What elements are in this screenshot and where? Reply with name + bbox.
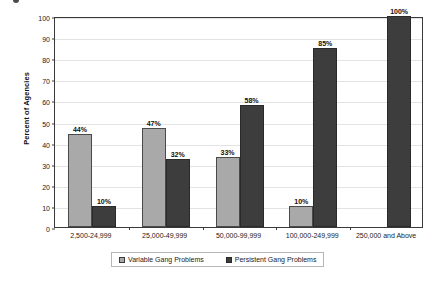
y-tick-label: 50 bbox=[42, 120, 50, 127]
bar-variable: 47% bbox=[142, 128, 166, 227]
bar-persistent: 58% bbox=[240, 105, 264, 227]
bar-value-label: 47% bbox=[147, 120, 161, 127]
y-tick-label: 10 bbox=[42, 204, 50, 211]
x-tick-mark bbox=[276, 227, 277, 230]
bar-value-label: 32% bbox=[171, 151, 185, 158]
y-tick-mark bbox=[52, 229, 55, 230]
bar-value-label: 44% bbox=[73, 126, 87, 133]
legend-swatch-icon bbox=[119, 257, 125, 263]
bar-persistent: 10% bbox=[92, 206, 116, 227]
x-tick-mark bbox=[129, 227, 130, 230]
plot-area: 0102030405060708090100 44%10%47%32%33%58… bbox=[54, 17, 423, 228]
x-axis-label: 250,000 and Above bbox=[356, 232, 416, 239]
bar-value-label: 58% bbox=[244, 97, 258, 104]
bar-value-label: 10% bbox=[97, 198, 111, 205]
x-axis-label: 50,000-99,999 bbox=[216, 232, 261, 239]
x-tick-mark bbox=[203, 227, 204, 230]
chart-legend: Variable Gang ProblemsPersistent Gang Pr… bbox=[111, 252, 324, 267]
bar-value-label: 100% bbox=[390, 8, 408, 15]
x-axis-label: 2,500-24,999 bbox=[70, 232, 111, 239]
y-tick-label: 60 bbox=[42, 99, 50, 106]
y-tick-label: 80 bbox=[42, 57, 50, 64]
x-axis-label: 25,000-49,999 bbox=[142, 232, 187, 239]
bar-value-label: 85% bbox=[318, 40, 332, 47]
legend-item[interactable]: Persistent Gang Problems bbox=[226, 256, 317, 263]
legend-item[interactable]: Variable Gang Problems bbox=[119, 256, 204, 263]
legend-swatch-icon bbox=[226, 257, 232, 263]
x-tick-mark bbox=[350, 227, 351, 230]
bar-persistent: 85% bbox=[313, 48, 337, 227]
x-axis-label: 100,000-249,999 bbox=[286, 232, 339, 239]
bar-variable: 33% bbox=[216, 157, 240, 227]
figure-marker-icon bbox=[13, 0, 19, 3]
x-axis-labels: 2,500-24,99925,000-49,99950,000-99,99910… bbox=[54, 232, 423, 244]
bar-persistent: 32% bbox=[166, 159, 190, 227]
y-tick-label: 70 bbox=[42, 78, 50, 85]
bars-layer: 44%10%47%32%33%58%10%85%100% bbox=[55, 18, 422, 227]
y-axis-title: Percent of Agencies bbox=[22, 39, 31, 179]
legend-label: Persistent Gang Problems bbox=[235, 256, 317, 263]
bar-value-label: 33% bbox=[220, 149, 234, 156]
y-tick-label: 0 bbox=[46, 226, 50, 233]
bar-persistent: 100% bbox=[387, 16, 411, 227]
bar-variable: 10% bbox=[289, 206, 313, 227]
y-tick-label: 20 bbox=[42, 183, 50, 190]
y-tick-label: 100 bbox=[38, 15, 50, 22]
y-tick-label: 30 bbox=[42, 162, 50, 169]
legend-label: Variable Gang Problems bbox=[128, 256, 204, 263]
bar-value-label: 10% bbox=[294, 198, 308, 205]
y-tick-label: 90 bbox=[42, 36, 50, 43]
bar-variable: 44% bbox=[68, 134, 92, 227]
y-tick-label: 40 bbox=[42, 141, 50, 148]
chart-figure: Percent of Agencies 01020304050607080901… bbox=[0, 0, 437, 281]
